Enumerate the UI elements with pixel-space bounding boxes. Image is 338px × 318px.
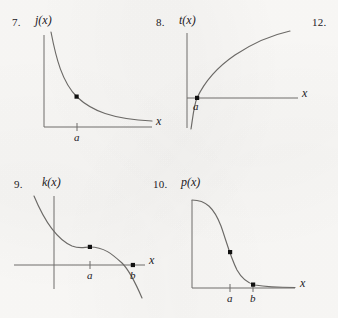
- figure-9-plot: [0, 160, 170, 318]
- figure-7-tick-label-a: a: [74, 131, 80, 143]
- figure-9: 9. k(x) a b x: [0, 160, 170, 318]
- stray-number-12: 12.: [312, 16, 326, 28]
- figure-10: 10. p(x) a b x: [150, 160, 338, 318]
- figure-10-x-axis-label: x: [300, 276, 305, 291]
- figure-9-tick-label-b: b: [130, 269, 136, 281]
- figure-10-point-b: [251, 283, 255, 287]
- figure-7-plot: [0, 0, 170, 155]
- figure-8: 8. t(x) a x: [150, 0, 338, 155]
- figure-8-curve: [191, 31, 290, 129]
- figure-10-curve: [192, 200, 295, 288]
- worksheet-page: 7. j(x) a x 8. t(x): [0, 0, 338, 318]
- figure-7: 7. j(x) a x: [0, 0, 170, 155]
- figure-9-tick-label-a: a: [87, 269, 93, 281]
- figure-7-point-a: [75, 95, 79, 99]
- figure-9-point-b: [131, 263, 135, 267]
- figure-8-x-axis-label: x: [302, 86, 307, 101]
- figure-9-point-a: [88, 245, 92, 249]
- figure-8-tick-label-a: a: [193, 100, 199, 112]
- figure-7-curve: [51, 32, 152, 121]
- figure-10-tick-label-a: a: [227, 292, 233, 304]
- figure-10-point-a: [228, 250, 232, 254]
- figure-10-plot: [150, 160, 338, 318]
- figure-10-tick-label-b: b: [250, 292, 256, 304]
- figure-8-plot: [150, 0, 338, 155]
